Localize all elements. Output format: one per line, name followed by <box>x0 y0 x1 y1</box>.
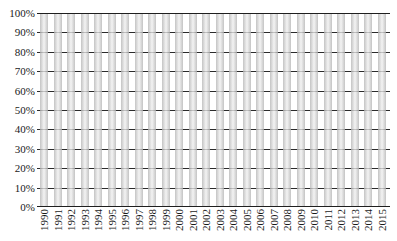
bar-2006 <box>256 13 264 207</box>
bar-2003 <box>216 13 224 207</box>
x-axis-line <box>37 206 390 207</box>
x-tick-label: 1991 <box>52 209 64 239</box>
bar-2010 <box>310 13 318 207</box>
x-tick-label: 1999 <box>160 209 172 239</box>
x-tick-label: 2011 <box>322 209 334 239</box>
x-tick-label: 2005 <box>241 209 253 239</box>
y-tick-label: 80% <box>0 46 35 58</box>
bar-2013 <box>351 13 359 207</box>
bar-2015 <box>378 13 386 207</box>
x-tick-label: 1998 <box>146 209 158 239</box>
x-tick-label: 1992 <box>65 209 77 239</box>
x-tick-label: 2001 <box>187 209 199 239</box>
bar-1996 <box>121 13 129 207</box>
x-tick-label: 2008 <box>281 209 293 239</box>
x-tick-label: 2006 <box>254 209 266 239</box>
y-tick-label: 10% <box>0 182 35 194</box>
bar-1998 <box>148 13 156 207</box>
bar-2001 <box>189 13 197 207</box>
bar-2005 <box>243 13 251 207</box>
percentage-bar-chart: 100%90%80%70%60%50%40%30%20%10%0% 199019… <box>0 0 397 241</box>
bar-1994 <box>94 13 102 207</box>
bar-1995 <box>108 13 116 207</box>
x-tick-label: 2015 <box>376 209 388 239</box>
y-tick-label: 90% <box>0 26 35 38</box>
x-tick-label: 1997 <box>133 209 145 239</box>
x-tick-label: 1995 <box>106 209 118 239</box>
y-tick-label: 20% <box>0 162 35 174</box>
bar-2000 <box>175 13 183 207</box>
x-tick-label: 1996 <box>119 209 131 239</box>
x-tick-label: 2012 <box>335 209 347 239</box>
x-tick-label: 2004 <box>227 209 239 239</box>
bar-2007 <box>270 13 278 207</box>
top-gridline-100pct <box>37 13 390 14</box>
x-tick-label: 2009 <box>295 209 307 239</box>
x-tick-label: 2003 <box>214 209 226 239</box>
x-tick-label: 2013 <box>349 209 361 239</box>
x-tick-label: 2000 <box>173 209 185 239</box>
x-tick-label: 2014 <box>362 209 374 239</box>
y-tick-label: 100% <box>0 7 35 19</box>
x-tick-label: 1994 <box>92 209 104 239</box>
x-tick-label: 2002 <box>200 209 212 239</box>
bar-2008 <box>283 13 291 207</box>
y-tick-label: 40% <box>0 123 35 135</box>
y-tick-label: 30% <box>0 143 35 155</box>
bar-1990 <box>40 13 48 207</box>
plot-area <box>37 13 390 207</box>
y-tick-label: 50% <box>0 104 35 116</box>
bar-2009 <box>297 13 305 207</box>
x-tick-label: 2007 <box>268 209 280 239</box>
bar-2014 <box>364 13 372 207</box>
y-tick-label: 0% <box>0 201 35 213</box>
bar-2004 <box>229 13 237 207</box>
y-tick-label: 70% <box>0 65 35 77</box>
x-tick-label: 2010 <box>308 209 320 239</box>
bar-1993 <box>81 13 89 207</box>
x-tick-label: 1993 <box>79 209 91 239</box>
bar-1991 <box>54 13 62 207</box>
y-tick-label: 60% <box>0 85 35 97</box>
bar-1997 <box>135 13 143 207</box>
x-tick-label: 1990 <box>38 209 50 239</box>
bar-1999 <box>162 13 170 207</box>
bar-2012 <box>337 13 345 207</box>
bar-2011 <box>324 13 332 207</box>
bar-2002 <box>202 13 210 207</box>
bar-1992 <box>67 13 75 207</box>
